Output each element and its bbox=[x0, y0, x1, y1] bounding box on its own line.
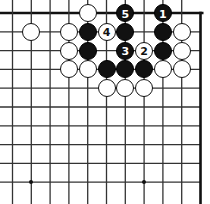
move-stone-2[interactable]: 2 bbox=[135, 42, 153, 60]
go-diagram: 51432 bbox=[0, 0, 210, 204]
move-stone-4[interactable]: 4 bbox=[98, 23, 116, 41]
white-stone[interactable] bbox=[173, 23, 191, 41]
move-stone-1[interactable]: 1 bbox=[154, 4, 172, 22]
white-stone[interactable] bbox=[60, 60, 78, 78]
white-stone[interactable] bbox=[135, 79, 153, 97]
white-stone[interactable] bbox=[173, 60, 191, 78]
move-number-label: 5 bbox=[117, 9, 133, 20]
move-number-label: 4 bbox=[99, 27, 115, 38]
white-stone[interactable] bbox=[154, 60, 172, 78]
move-stone-3[interactable]: 3 bbox=[116, 42, 134, 60]
hoshi-point bbox=[142, 180, 146, 184]
move-number-label: 2 bbox=[136, 46, 152, 57]
black-stone[interactable] bbox=[116, 60, 134, 78]
move-number-label: 3 bbox=[117, 46, 133, 57]
white-stone[interactable] bbox=[60, 23, 78, 41]
white-stone[interactable] bbox=[173, 42, 191, 60]
white-stone[interactable] bbox=[60, 42, 78, 60]
black-stone[interactable] bbox=[116, 23, 134, 41]
black-stone[interactable] bbox=[98, 60, 116, 78]
stone-layer: 51432 bbox=[0, 0, 210, 204]
black-stone[interactable] bbox=[154, 42, 172, 60]
black-stone[interactable] bbox=[154, 23, 172, 41]
white-stone[interactable] bbox=[22, 23, 40, 41]
hoshi-point bbox=[29, 180, 33, 184]
black-stone[interactable] bbox=[135, 60, 153, 78]
black-stone[interactable] bbox=[79, 42, 97, 60]
white-stone[interactable] bbox=[79, 60, 97, 78]
move-number-label: 1 bbox=[155, 9, 171, 20]
move-stone-5[interactable]: 5 bbox=[116, 4, 134, 22]
black-stone[interactable] bbox=[79, 23, 97, 41]
white-stone[interactable] bbox=[79, 4, 97, 22]
white-stone[interactable] bbox=[98, 79, 116, 97]
white-stone[interactable] bbox=[116, 79, 134, 97]
